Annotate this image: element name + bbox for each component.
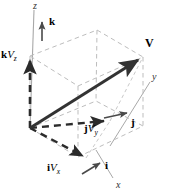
vector-diagram-canvas (0, 0, 172, 195)
component-jvy-subscript: y (94, 128, 97, 137)
axis-label-z: z (33, 1, 37, 11)
unit-vector-label-j: j (131, 117, 135, 128)
component-label-kvz: kVz (1, 49, 17, 63)
unit-vector-arrow-i (82, 163, 100, 174)
unit-vector-label-k: k (49, 16, 55, 27)
component-kvz-scalar: V (7, 48, 14, 60)
component-label-jvy: jVy (84, 123, 98, 137)
axis-label-x: x (116, 180, 120, 190)
unit-vector-label-i: i (105, 160, 108, 171)
component-vectors (30, 60, 104, 156)
vector-diagram-figure: z y x k j i kVz jVy iVx V (0, 0, 172, 195)
box-edge-back (96, 30, 97, 101)
axis-label-y: y (152, 72, 156, 82)
unit-vector-arrow-j (104, 113, 127, 118)
resultant-vector-label-v: V (145, 37, 154, 49)
component-vector-ivx (30, 128, 83, 156)
component-kvz-subscript: z (14, 54, 17, 63)
box-top-face (30, 30, 143, 86)
component-ivx-subscript: x (57, 167, 60, 176)
axis-lines (30, 10, 150, 178)
component-label-ivx: iVx (47, 162, 60, 176)
unit-vector-arrows (42, 22, 127, 174)
resultant-vector-v (30, 60, 138, 128)
component-ivx-scalar: V (50, 161, 57, 173)
y-axis-line (110, 82, 150, 146)
